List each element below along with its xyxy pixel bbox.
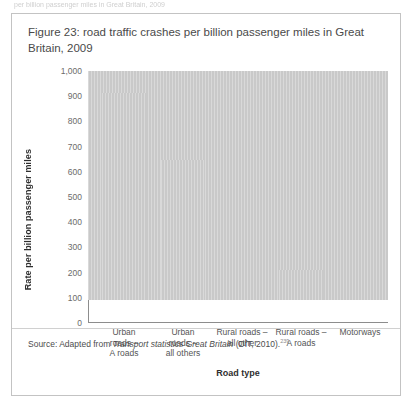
y-tick-label: 200 <box>68 268 82 278</box>
bar-series <box>88 71 388 300</box>
chart-axes <box>88 71 388 323</box>
y-tick-label: 600 <box>68 167 82 177</box>
chart-plot-area: Rate per billion passenger miles 1,000 9… <box>12 71 400 371</box>
y-axis-title: Rate per billion passenger miles <box>23 149 37 290</box>
figure-title: Figure 23: road traffic crashes per bill… <box>28 24 378 56</box>
source-note: Source: Adapted from Transport statistic… <box>28 338 289 349</box>
y-tick-label: 700 <box>68 142 82 152</box>
source-prefix: Source: Adapted from <box>28 339 113 349</box>
y-tick-label: 1,000 <box>61 66 82 76</box>
page-top-text-fragment: per billion passenger miles in Great Bri… <box>14 0 274 9</box>
source-divider <box>12 328 400 329</box>
bar-rural-roads-a-roads <box>279 270 323 300</box>
y-tick-label: 100 <box>68 293 82 303</box>
bar-urban-roads-a-roads <box>102 93 146 300</box>
y-axis-tick-labels: 1,000 900 800 700 600 500 400 300 200 10… <box>42 71 86 323</box>
y-tick-label: 300 <box>68 242 82 252</box>
y-tick-label: 400 <box>68 217 82 227</box>
source-reference-number: 239 <box>280 338 289 344</box>
x-axis-title: Road type <box>88 368 388 378</box>
y-tick-label: 0 <box>77 318 82 328</box>
x-axis-line <box>88 322 388 323</box>
source-publication-title: Transport statistics Great Britain <box>113 339 234 349</box>
y-tick-label: 800 <box>68 116 82 126</box>
y-tick-label: 500 <box>68 192 82 202</box>
y-tick-label: 900 <box>68 91 82 101</box>
bar-urban-roads-all-others <box>161 160 205 300</box>
source-suffix: (DfT, 2010). <box>233 339 280 349</box>
bar-rural-roads-all-other <box>220 215 264 299</box>
figure-container: Figure 23: road traffic crashes per bill… <box>11 13 401 396</box>
